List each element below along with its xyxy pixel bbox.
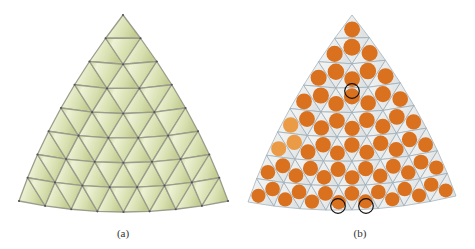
mesh-vertex xyxy=(96,210,98,212)
mesh-vertex xyxy=(139,37,141,39)
mesh-vertex xyxy=(36,153,38,155)
mesh-vertex xyxy=(122,14,124,16)
disk xyxy=(330,146,345,161)
disk xyxy=(275,158,290,173)
disk xyxy=(283,117,298,132)
disk xyxy=(392,91,408,107)
mesh-vertex xyxy=(107,137,109,139)
mesh-vertex xyxy=(122,63,124,65)
mesh-vertex xyxy=(48,130,50,132)
mesh-vertex xyxy=(81,185,83,187)
disk xyxy=(359,145,374,160)
disk xyxy=(402,132,417,147)
disk xyxy=(344,71,360,87)
panel-a: (a) xyxy=(0,0,240,249)
disk xyxy=(331,162,346,177)
mesh-vertex xyxy=(208,153,210,155)
disk xyxy=(296,94,312,110)
mesh-vertex xyxy=(105,37,107,39)
caption-b: (b) xyxy=(340,227,380,239)
mesh-vertex xyxy=(180,158,182,160)
mesh-vertex xyxy=(175,208,177,210)
disk xyxy=(401,165,416,180)
mesh-vertex xyxy=(88,60,90,62)
mesh-vertex xyxy=(137,137,139,139)
caption-a: (a) xyxy=(103,227,143,239)
mesh-vertex xyxy=(149,210,151,212)
disk xyxy=(289,168,304,183)
mesh-vertex xyxy=(153,111,155,113)
mesh-vertex xyxy=(136,186,138,188)
mesh-vertex xyxy=(167,135,169,137)
disk xyxy=(414,155,429,170)
disk xyxy=(251,189,265,203)
disk xyxy=(328,96,344,112)
disk xyxy=(389,109,405,125)
disk xyxy=(301,144,316,159)
mesh-vertex xyxy=(122,112,124,114)
mesh-vertex xyxy=(65,158,67,160)
disk xyxy=(371,185,386,200)
disk xyxy=(373,169,388,184)
disk xyxy=(345,170,360,185)
disk xyxy=(378,68,394,84)
mesh-surface-disk-packing xyxy=(235,0,475,225)
disk xyxy=(375,119,390,134)
disk xyxy=(265,182,280,197)
disk xyxy=(418,137,433,152)
disk xyxy=(439,183,453,197)
disk xyxy=(343,39,360,56)
mesh-vertex xyxy=(227,200,229,202)
disk xyxy=(385,192,399,206)
disk xyxy=(317,170,332,185)
mesh-vertex xyxy=(138,87,140,89)
disk xyxy=(360,95,376,111)
disk xyxy=(327,46,343,62)
disk xyxy=(389,142,404,157)
disk xyxy=(397,182,412,197)
disk xyxy=(311,70,327,86)
disk xyxy=(344,21,360,37)
mesh-vertex xyxy=(184,107,186,109)
mesh-vertex xyxy=(197,130,199,132)
disk xyxy=(299,111,315,127)
mesh-vertex xyxy=(70,208,72,210)
disk xyxy=(314,120,329,135)
mesh-vertex xyxy=(27,177,29,179)
disk xyxy=(344,121,359,136)
disk xyxy=(313,87,329,103)
disk xyxy=(328,64,345,81)
disk xyxy=(305,194,319,208)
mesh-vertex xyxy=(54,181,56,183)
disk xyxy=(406,114,421,129)
mesh-vertex xyxy=(201,205,203,207)
disk xyxy=(424,177,438,191)
disk xyxy=(287,135,302,150)
mesh-vertex xyxy=(156,60,158,62)
disk xyxy=(271,141,286,156)
mesh-vertex xyxy=(109,186,111,188)
mesh-vertex xyxy=(91,111,93,113)
disk xyxy=(345,186,360,201)
disk xyxy=(329,113,345,129)
mesh-vertex xyxy=(106,87,108,89)
mesh-vertex xyxy=(218,177,220,179)
mesh-vertex xyxy=(122,211,124,213)
disk xyxy=(360,63,376,79)
mesh-vertex xyxy=(191,181,193,183)
panel-b: (b) xyxy=(235,0,475,249)
disk xyxy=(362,45,378,61)
mesh-vertex xyxy=(163,185,165,187)
disk xyxy=(412,189,426,203)
mesh-vertex xyxy=(18,200,20,202)
disk xyxy=(429,160,443,174)
disk xyxy=(261,165,276,180)
disk xyxy=(318,186,333,201)
disk xyxy=(344,137,359,152)
mesh-vertex xyxy=(77,135,79,137)
disk xyxy=(386,159,401,174)
disk xyxy=(292,185,307,200)
mesh-vertex xyxy=(122,162,124,164)
disk xyxy=(359,112,375,128)
disk xyxy=(375,86,391,102)
